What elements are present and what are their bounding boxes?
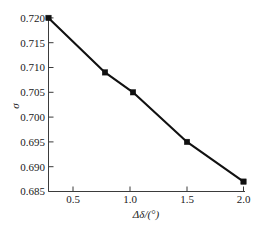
- line-chart: 0.685 0.690 0.695 0.700 0.705 0.710 0.71…: [0, 0, 266, 233]
- x-tick-label: 1.5: [180, 193, 194, 205]
- x-tick-marks: [73, 187, 244, 192]
- x-tick-labels: 0.5 1.0 1.5 2.0: [66, 193, 251, 205]
- data-point-marker: [102, 70, 107, 75]
- data-point-marker: [130, 90, 135, 95]
- y-tick-marks: [49, 18, 54, 192]
- data-point-marker: [184, 139, 189, 144]
- y-tick-label: 0.695: [20, 136, 45, 148]
- y-tick-label: 0.690: [20, 161, 45, 173]
- y-tick-label: 0.700: [20, 111, 45, 123]
- x-axis-title: Δδ/(°): [132, 208, 160, 221]
- data-markers: [46, 15, 246, 184]
- y-tick-label: 0.715: [20, 37, 45, 49]
- x-tick-label: 2.0: [237, 193, 251, 205]
- y-axis-title: σ: [9, 103, 21, 109]
- data-series-line: [49, 18, 244, 182]
- x-tick-label: 1.0: [123, 193, 137, 205]
- y-tick-label: 0.705: [20, 86, 45, 98]
- y-tick-labels: 0.685 0.690 0.695 0.700 0.705 0.710 0.71…: [20, 12, 45, 198]
- y-tick-label: 0.720: [20, 12, 45, 24]
- chart-figure: 0.685 0.690 0.695 0.700 0.705 0.710 0.71…: [0, 0, 266, 233]
- x-tick-label: 0.5: [66, 193, 80, 205]
- data-point-marker: [46, 15, 51, 20]
- y-tick-label: 0.685: [20, 185, 45, 197]
- y-tick-label: 0.710: [20, 61, 45, 73]
- data-point-marker: [241, 179, 246, 184]
